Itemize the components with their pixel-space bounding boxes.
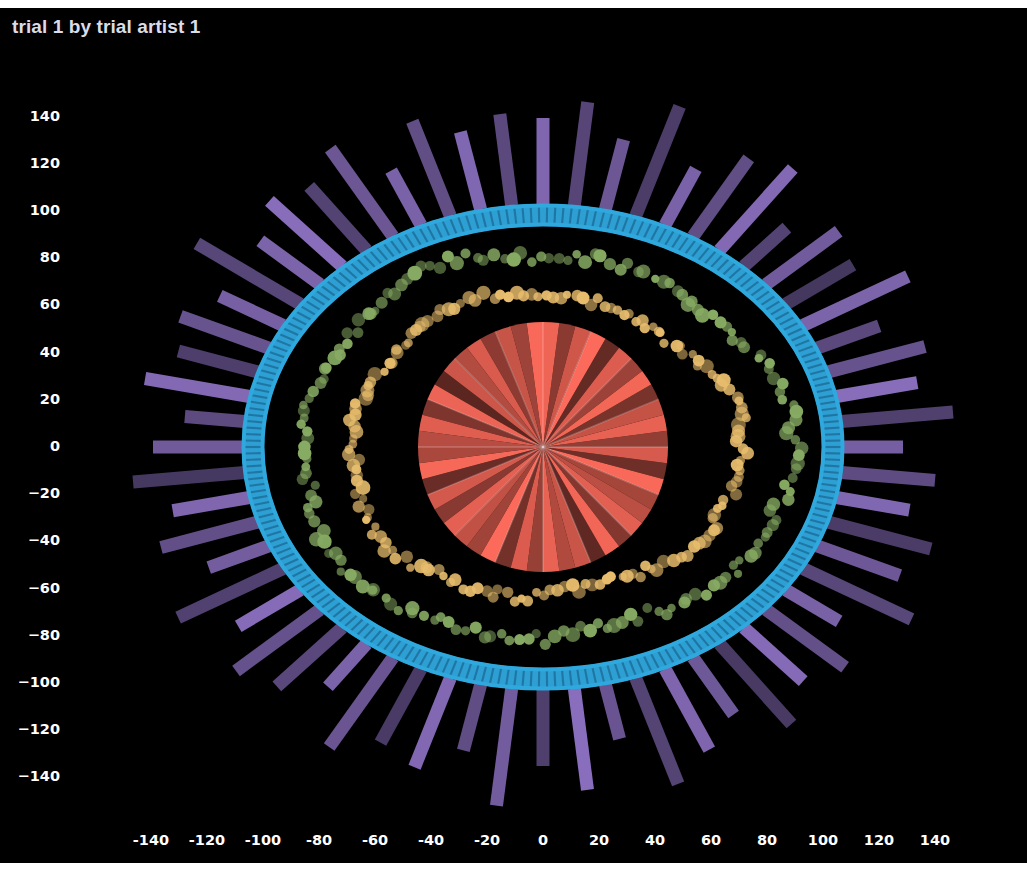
- orange-dot: [563, 291, 571, 299]
- green-dot: [514, 634, 525, 645]
- orange-dot: [502, 587, 513, 598]
- green-dot: [301, 462, 310, 471]
- orange-dot: [619, 573, 627, 581]
- orange-dot: [446, 578, 455, 587]
- blue-ring-dash: [522, 670, 523, 688]
- orange-dot: [708, 513, 718, 523]
- orange-dot: [386, 358, 397, 369]
- radial-bar: [325, 145, 398, 240]
- y-tick-label: 60: [0, 296, 60, 312]
- green-dot: [415, 261, 426, 272]
- y-tick-label: 0: [0, 438, 60, 454]
- green-dot: [777, 395, 787, 405]
- green-dot: [738, 341, 750, 353]
- orange-dot: [677, 349, 688, 360]
- radial-bar: [537, 690, 550, 766]
- green-dot: [554, 253, 565, 264]
- green-dot: [479, 631, 491, 643]
- y-tick-label: −120: [0, 721, 60, 737]
- orange-dot: [476, 286, 490, 300]
- radial-bar: [659, 166, 701, 228]
- green-dot: [729, 561, 738, 570]
- orange-dot: [730, 489, 742, 501]
- green-dot: [578, 255, 592, 269]
- green-dot: [419, 611, 429, 621]
- y-tick-label: −40: [0, 532, 60, 548]
- green-dot: [782, 493, 795, 506]
- orange-dot: [404, 339, 413, 348]
- blue-ring-dash: [522, 207, 523, 225]
- orange-dot: [640, 323, 650, 333]
- orange-dot: [406, 564, 414, 572]
- blue-ring-dash: [245, 459, 263, 460]
- green-dot: [761, 533, 770, 542]
- radial-bar: [454, 130, 487, 211]
- green-dot: [788, 473, 798, 483]
- green-dot: [642, 603, 652, 613]
- center-pie-layer: [418, 322, 668, 572]
- green-dot: [487, 248, 500, 261]
- radial-bar: [835, 376, 918, 403]
- green-dot: [470, 622, 482, 634]
- y-tick-label: −140: [0, 768, 60, 784]
- orange-dot: [458, 584, 468, 594]
- radial-bar: [599, 683, 626, 740]
- y-tick-label: 100: [0, 202, 60, 218]
- green-dot: [430, 615, 439, 624]
- green-dot: [548, 630, 562, 644]
- green-dot: [317, 524, 331, 538]
- green-dot: [622, 258, 633, 269]
- green-dot: [701, 590, 712, 601]
- green-dot: [764, 504, 777, 517]
- radial-bar: [194, 238, 304, 310]
- orange-dot: [533, 292, 542, 301]
- radial-bar: [599, 138, 630, 211]
- green-dot: [540, 639, 551, 650]
- green-dot: [344, 569, 357, 582]
- green-dot: [695, 308, 710, 323]
- blue-ring-dash: [245, 434, 263, 435]
- orange-dot: [532, 588, 541, 597]
- radial-bar: [537, 118, 550, 204]
- green-dot: [744, 549, 758, 563]
- radial-bar: [457, 683, 487, 752]
- blue-ring-dash: [562, 207, 563, 225]
- green-dot: [497, 629, 506, 638]
- orange-dot: [380, 368, 388, 376]
- green-dot: [321, 362, 332, 373]
- y-tick-label: 80: [0, 249, 60, 265]
- radial-bar: [815, 320, 881, 355]
- green-dot: [603, 624, 612, 633]
- blue-ring-dash: [245, 427, 263, 428]
- green-dot: [504, 636, 514, 646]
- green-dot: [544, 253, 554, 263]
- green-dot: [478, 255, 489, 266]
- y-tick-label: 40: [0, 344, 60, 360]
- radial-bar: [841, 466, 936, 487]
- blue-ring-dash: [824, 459, 842, 460]
- blue-ring-dash: [554, 670, 555, 688]
- y-tick-label: −20: [0, 485, 60, 501]
- radial-bar: [144, 372, 251, 403]
- orange-dot: [434, 564, 445, 575]
- orange-dot: [593, 293, 603, 303]
- radial-bar: [385, 168, 426, 229]
- green-dot: [376, 297, 388, 309]
- green-dot: [407, 608, 418, 619]
- green-dot: [755, 354, 764, 363]
- x-tick-label: 140: [895, 832, 975, 848]
- chart-title: trial 1 by trial artist 1: [12, 16, 200, 38]
- green-dot: [434, 262, 446, 274]
- blue-ring-dash: [531, 206, 532, 224]
- orange-dot: [730, 435, 742, 447]
- green-dot: [636, 264, 650, 278]
- radial-bar: [172, 491, 251, 517]
- polar-composite-plot: [0, 0, 1027, 871]
- orange-dot: [390, 553, 402, 565]
- orange-dot: [359, 495, 367, 503]
- green-dot: [461, 626, 470, 635]
- green-dot: [382, 594, 391, 603]
- radial-bar: [841, 406, 954, 428]
- green-dot: [324, 549, 333, 558]
- green-dot: [371, 307, 379, 315]
